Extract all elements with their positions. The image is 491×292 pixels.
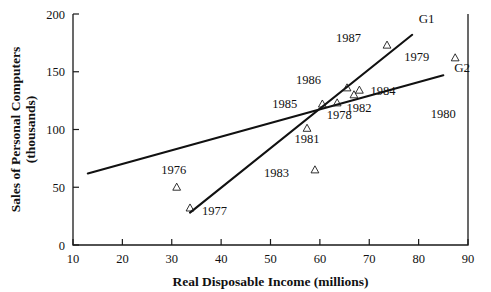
point-label: 1981 <box>295 132 320 146</box>
data-point-1984: 1984 <box>355 84 396 98</box>
x-tick-label: 50 <box>264 252 277 266</box>
data-point-1982: 1982 <box>346 91 371 115</box>
scatter-plot-canvas: 102030405060708090050100150200 G1G2 1976… <box>0 0 491 292</box>
data-point-1980: 1980 <box>431 107 456 121</box>
y-tick-label: 100 <box>46 123 65 137</box>
data-point-1987: 1987 <box>336 31 391 48</box>
triangle-marker <box>303 124 311 131</box>
point-label: 1985 <box>272 97 297 111</box>
triangle-marker <box>355 86 363 93</box>
series-label-g1: G1 <box>419 11 435 26</box>
data-point-1986: 1986 <box>296 73 351 91</box>
data-point-1976: 1976 <box>161 163 186 190</box>
data-point-1977: 1977 <box>186 204 227 218</box>
x-tick-label: 20 <box>116 252 129 266</box>
x-tick-label: 90 <box>462 252 475 266</box>
point-label: 1979 <box>404 50 429 64</box>
series-label-g2: G2 <box>454 60 470 75</box>
x-tick-label: 30 <box>166 252 179 266</box>
x-tick-label: 10 <box>67 252 80 266</box>
trendline-g1 <box>190 35 412 213</box>
y-tick-label: 200 <box>46 8 65 22</box>
data-point-1981: 1981 <box>295 124 320 146</box>
axis-frame <box>73 14 468 245</box>
y-axis-title-line2: (thousands) <box>23 96 38 164</box>
data-point-1983: 1983 <box>264 166 319 180</box>
x-tick-label: 60 <box>314 252 327 266</box>
point-label: 1977 <box>202 204 227 218</box>
chart-figure: 102030405060708090050100150200 G1G2 1976… <box>0 0 491 292</box>
data-point-1979: 1979 <box>404 50 459 64</box>
y-tick-label: 50 <box>53 181 66 195</box>
x-tick-label: 80 <box>412 252 425 266</box>
point-label: 1980 <box>431 107 456 121</box>
x-axis-title: Real Disposable Income (millions) <box>172 274 368 289</box>
x-tick-label: 40 <box>215 252 228 266</box>
point-label: 1976 <box>161 163 186 177</box>
point-label: 1982 <box>346 101 371 115</box>
point-label: 1983 <box>264 166 289 180</box>
x-tick-label: 70 <box>363 252 376 266</box>
y-tick-label: 0 <box>59 239 65 253</box>
trendline-layer: G1G2 <box>88 11 470 212</box>
triangle-marker <box>311 166 319 173</box>
point-label: 1986 <box>296 73 321 87</box>
y-axis-title-line1: Sales of Personal Computers <box>8 47 23 212</box>
axes-layer: 102030405060708090050100150200 <box>46 8 474 267</box>
y-tick-label: 150 <box>46 65 65 79</box>
point-label: 1984 <box>370 84 396 98</box>
triangle-marker <box>383 41 391 48</box>
data-points-layer: 1976197719811983198519781986198219841987… <box>161 31 459 218</box>
point-label: 1987 <box>336 31 361 45</box>
triangle-marker <box>173 183 181 190</box>
